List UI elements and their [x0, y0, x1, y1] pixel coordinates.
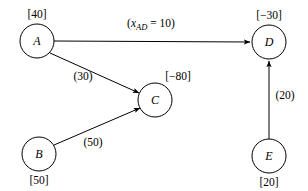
- edge-a-d: [54, 41, 250, 42]
- node-e: E: [252, 139, 286, 173]
- diagram-canvas: A B C D E [40] [50] [−80] [−3: [0, 0, 308, 191]
- node-b-letter: B: [35, 147, 43, 161]
- edge-label-a-d-suffix: ): [171, 17, 175, 30]
- supply-label-e: [20]: [259, 176, 278, 188]
- node-e-letter: E: [264, 149, 273, 163]
- supply-label-c: [−80]: [165, 70, 191, 82]
- supply-label-b: [50]: [29, 174, 48, 186]
- supply-label-a: [40]: [27, 8, 46, 20]
- edge-label-a-d-value: 10: [160, 17, 172, 29]
- supply-label-d: [−30]: [256, 9, 282, 21]
- node-c-letter: C: [151, 93, 160, 107]
- node-d: D: [252, 25, 286, 59]
- edge-label-b-c: (50): [83, 136, 102, 149]
- edge-label-a-d-equals: =: [147, 17, 159, 29]
- edge-label-a-d-subscript: AD: [135, 22, 148, 32]
- node-b: B: [22, 137, 56, 171]
- node-d-letter: D: [264, 35, 274, 49]
- edge-label-e-d: (20): [275, 89, 294, 102]
- node-c: C: [138, 83, 172, 117]
- nodes-group: A B C D E: [20, 24, 286, 173]
- edge-a-c: [50, 53, 139, 93]
- node-a-letter: A: [32, 34, 41, 48]
- edge-label-a-d: (xAD = 10): [127, 17, 175, 32]
- node-a: A: [20, 24, 54, 58]
- network-flow-diagram: A B C D E [40] [50] [−80] [−3: [0, 0, 308, 191]
- edge-label-a-c: (30): [73, 70, 92, 83]
